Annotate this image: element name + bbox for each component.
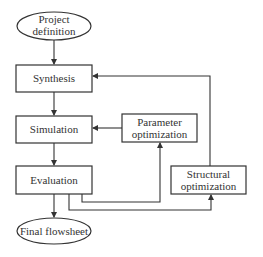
- node-label: Evaluation: [30, 174, 78, 186]
- node-label: optimization: [132, 128, 188, 140]
- node-label: Structural: [187, 168, 230, 180]
- flowchart-diagram: Project definition Synthesis Simulation …: [0, 0, 263, 257]
- node-final-flowsheet: Final flowsheet: [17, 218, 91, 244]
- node-project-definition: Project definition: [17, 12, 91, 40]
- node-structural-optimization: Structural optimization: [171, 166, 246, 194]
- node-label: Final flowsheet: [20, 225, 88, 237]
- node-label: optimization: [181, 180, 237, 192]
- node-label: Synthesis: [33, 72, 75, 84]
- edge-evaluation-to-parameter: [82, 143, 160, 202]
- node-label: Project: [38, 13, 69, 25]
- node-simulation: Simulation: [16, 116, 92, 143]
- node-label: Simulation: [30, 123, 79, 135]
- node-parameter-optimization: Parameter optimization: [122, 114, 197, 142]
- node-evaluation: Evaluation: [16, 166, 92, 194]
- node-synthesis: Synthesis: [16, 65, 92, 92]
- node-label: Parameter: [137, 116, 182, 128]
- node-label: definition: [33, 25, 76, 37]
